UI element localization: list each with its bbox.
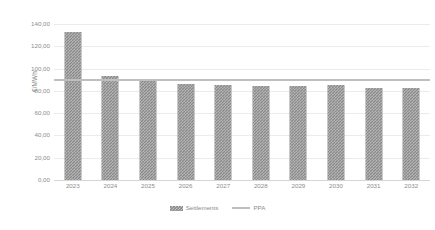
legend-label: Settlements bbox=[186, 205, 219, 211]
x-axis-tick-label: 2027 bbox=[216, 183, 230, 189]
bar-slot bbox=[204, 24, 242, 180]
bar-settlements[interactable] bbox=[177, 84, 194, 180]
chart-container: €/MWh 140,00120,00100,0080,0060,0040,002… bbox=[0, 0, 435, 230]
x-axis-tick-label: 2024 bbox=[104, 183, 118, 189]
bar-settlements[interactable] bbox=[139, 80, 156, 180]
y-axis-tick-labels: 140,00120,00100,0080,0060,0040,0020,000,… bbox=[16, 0, 50, 230]
bar-settlements[interactable] bbox=[64, 32, 81, 180]
bar-settlements[interactable] bbox=[252, 86, 269, 180]
x-axis-tick-label: 2028 bbox=[254, 183, 268, 189]
y-axis-tick-label: 60,00 bbox=[16, 110, 50, 116]
x-axis-tick-label: 2029 bbox=[292, 183, 306, 189]
y-axis-tick-label: 140,00 bbox=[16, 21, 50, 27]
bar-series-settlements bbox=[54, 24, 430, 180]
y-axis-tick-label: 80,00 bbox=[16, 88, 50, 94]
legend-line-swatch-icon bbox=[232, 207, 250, 209]
x-axis-tick-labels: 2023202420252026202720282029203020312032 bbox=[54, 183, 430, 197]
x-axis-tick-label: 2031 bbox=[367, 183, 381, 189]
bar-slot bbox=[167, 24, 205, 180]
legend-bar-swatch-icon bbox=[170, 206, 183, 211]
line-series-ppa bbox=[54, 79, 430, 81]
x-axis-tick-label: 2026 bbox=[179, 183, 193, 189]
y-axis-tick-label: 100,00 bbox=[16, 65, 50, 71]
chart-legend: SettlementsPPA bbox=[0, 205, 435, 211]
bar-slot bbox=[54, 24, 92, 180]
y-axis-tick-label: 40,00 bbox=[16, 132, 50, 138]
bar-slot bbox=[355, 24, 393, 180]
y-axis-tick-label: 20,00 bbox=[16, 155, 50, 161]
x-axis-tick-label: 2025 bbox=[141, 183, 155, 189]
bar-slot bbox=[317, 24, 355, 180]
bar-slot bbox=[92, 24, 130, 180]
x-axis-tick-label: 2032 bbox=[404, 183, 418, 189]
legend-item[interactable]: Settlements bbox=[170, 205, 219, 211]
bar-settlements[interactable] bbox=[403, 88, 420, 180]
bar-slot bbox=[280, 24, 318, 180]
legend-label: PPA bbox=[253, 205, 265, 211]
plot-area bbox=[54, 24, 430, 180]
legend-item[interactable]: PPA bbox=[232, 205, 265, 211]
bar-settlements[interactable] bbox=[215, 85, 232, 180]
bar-slot bbox=[129, 24, 167, 180]
bar-settlements[interactable] bbox=[290, 86, 307, 180]
bar-settlements[interactable] bbox=[365, 88, 382, 180]
axis-baseline bbox=[54, 180, 430, 181]
bar-slot bbox=[392, 24, 430, 180]
bar-settlements[interactable] bbox=[102, 76, 119, 180]
x-axis-tick-label: 2023 bbox=[66, 183, 80, 189]
y-axis-tick-label: 0,00 bbox=[16, 177, 50, 183]
bar-slot bbox=[242, 24, 280, 180]
bar-settlements[interactable] bbox=[327, 85, 344, 180]
y-axis-tick-label: 120,00 bbox=[16, 43, 50, 49]
x-axis-tick-label: 2030 bbox=[329, 183, 343, 189]
